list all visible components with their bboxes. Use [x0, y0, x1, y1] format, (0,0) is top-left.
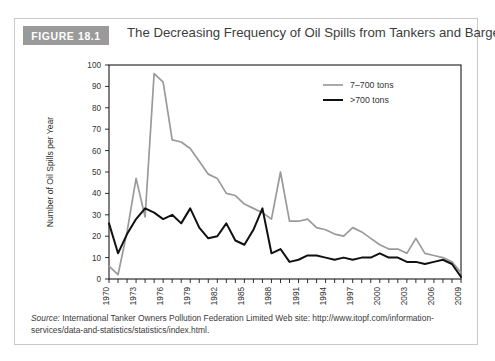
source-text: International Tanker Owners Pollution Fe…	[31, 313, 434, 335]
legend-label-1: 7–700 tons	[350, 80, 394, 90]
line-chart-svg: 0102030405060708090100197019731976197919…	[23, 55, 471, 307]
y-tick-label: 20	[92, 232, 102, 241]
legend-label-2: >700 tons	[350, 95, 389, 105]
x-tick-label: 2006	[427, 287, 436, 306]
x-tick-label: 1982	[210, 287, 219, 306]
x-tick-label: 1997	[346, 287, 355, 306]
plot-frame	[109, 65, 461, 279]
chart-plot-area: 0102030405060708090100197019731976197919…	[23, 55, 471, 307]
x-tick-label: 1988	[264, 287, 273, 306]
x-tick-label: 1991	[292, 287, 301, 306]
source-label: Source:	[31, 313, 60, 323]
x-tick-label: 1970	[102, 287, 111, 306]
x-tick-label: 1976	[156, 287, 165, 306]
y-tick-label: 40	[92, 189, 102, 198]
y-tick-label: 10	[92, 254, 102, 263]
y-tick-label: 90	[92, 82, 102, 91]
y-tick-label: 60	[92, 147, 102, 156]
x-tick-label: 1994	[319, 287, 328, 306]
y-tick-label: 80	[92, 104, 102, 113]
y-tick-label: 70	[92, 125, 102, 134]
x-tick-label: 2000	[373, 287, 382, 306]
figure-header: FIGURE 18.1 The Decreasing Frequency of …	[15, 19, 477, 53]
figure-title: The Decreasing Frequency of Oil Spills f…	[127, 25, 495, 40]
figure-number-badge: FIGURE 18.1	[23, 26, 109, 45]
x-tick-label: 1973	[129, 287, 138, 306]
y-tick-label: 30	[92, 211, 102, 220]
source-note: Source: International Tanker Owners Poll…	[31, 312, 463, 336]
y-tick-label: 0	[96, 275, 101, 284]
x-tick-label: 2009	[454, 287, 463, 306]
y-tick-label: 100	[87, 61, 101, 70]
y-axis-title: Number of Oil Spills per Year	[45, 117, 55, 227]
series-line-1	[109, 74, 461, 275]
x-tick-label: 1985	[237, 287, 246, 306]
y-tick-label: 50	[92, 168, 102, 177]
figure-card: FIGURE 18.1 The Decreasing Frequency of …	[14, 18, 478, 345]
x-tick-label: 2003	[400, 287, 409, 306]
series-line-2	[109, 208, 461, 276]
x-tick-label: 1979	[183, 287, 192, 306]
